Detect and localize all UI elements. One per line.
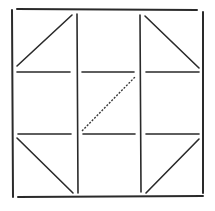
diagonal-bottom-left <box>17 138 73 193</box>
grid-diagram <box>0 0 215 211</box>
grid-svg <box>0 0 215 211</box>
diagonal-center-dashed <box>82 76 136 131</box>
frame-top <box>17 9 197 10</box>
diagonal-top-left <box>17 15 72 66</box>
diagonal-top-right <box>145 16 199 68</box>
frame-left <box>12 10 13 197</box>
inner-vertical-2 <box>140 15 141 192</box>
diagonal-bottom-right <box>146 139 199 193</box>
frame-bottom <box>18 196 203 197</box>
inner-vertical-1 <box>77 14 78 193</box>
